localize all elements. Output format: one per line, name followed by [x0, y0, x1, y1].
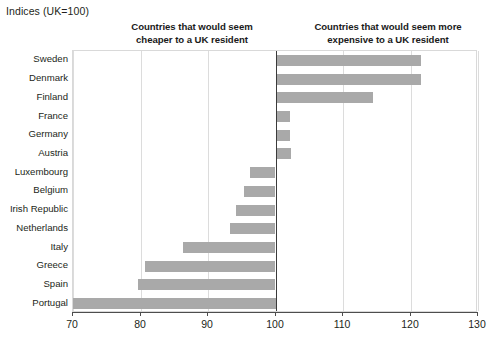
- bars-layer: [73, 51, 476, 311]
- y-label-austria: Austria: [0, 148, 68, 158]
- bar-irish-republic: [236, 205, 276, 216]
- x-tick-110: [342, 312, 343, 316]
- x-label-120: 120: [390, 318, 430, 330]
- gridline-130: [478, 51, 479, 311]
- y-label-luxembourg: Luxembourg: [0, 167, 68, 177]
- annotation-expensive-line2: expensive to a UK resident: [288, 34, 488, 47]
- x-tick-100: [275, 312, 276, 316]
- bar-austria: [276, 148, 292, 159]
- y-label-portugal: Portugal: [0, 298, 68, 308]
- y-label-germany: Germany: [0, 129, 68, 139]
- x-tick-80: [140, 312, 141, 316]
- y-label-denmark: Denmark: [0, 73, 68, 83]
- y-label-italy: Italy: [0, 242, 68, 252]
- bar-germany: [276, 130, 291, 141]
- bar-finland: [276, 92, 374, 103]
- y-label-greece: Greece: [0, 260, 68, 270]
- x-label-70: 70: [52, 318, 92, 330]
- x-tick-120: [410, 312, 411, 316]
- x-tick-90: [207, 312, 208, 316]
- baseline-gridline-100: [276, 51, 277, 311]
- bar-spain: [138, 279, 276, 290]
- annotation-expensive: Countries that would seem more expensive…: [288, 21, 488, 46]
- annotation-cheaper-line2: cheaper to a UK resident: [104, 34, 280, 47]
- bar-greece: [145, 261, 276, 272]
- chart-title: Indices (UK=100): [6, 5, 89, 17]
- y-label-finland: Finland: [0, 92, 68, 102]
- y-axis-labels: SwedenDenmarkFinlandFranceGermanyAustria…: [0, 50, 68, 312]
- bar-italy: [183, 242, 275, 253]
- plot-area: [72, 50, 477, 312]
- x-label-110: 110: [322, 318, 362, 330]
- y-label-belgium: Belgium: [0, 185, 68, 195]
- bar-denmark: [276, 74, 421, 85]
- annotation-cheaper: Countries that would seem cheaper to a U…: [104, 21, 280, 46]
- x-tick-70: [72, 312, 73, 316]
- x-label-90: 90: [187, 318, 227, 330]
- bar-netherlands: [230, 223, 276, 234]
- bar-france: [276, 111, 291, 122]
- annotation-cheaper-line1: Countries that would seem: [104, 21, 280, 34]
- annotation-expensive-line1: Countries that would seem more: [288, 21, 488, 34]
- bar-portugal: [73, 298, 276, 309]
- x-label-130: 130: [457, 318, 491, 330]
- y-label-irish-republic: Irish Republic: [0, 204, 68, 214]
- bar-belgium: [244, 186, 276, 197]
- bar-luxembourg: [250, 167, 276, 178]
- y-label-netherlands: Netherlands: [0, 223, 68, 233]
- x-tick-130: [477, 312, 478, 316]
- x-label-80: 80: [120, 318, 160, 330]
- y-label-france: France: [0, 111, 68, 121]
- y-label-sweden: Sweden: [0, 54, 68, 64]
- x-label-100: 100: [255, 318, 295, 330]
- bar-sweden: [276, 55, 421, 66]
- y-label-spain: Spain: [0, 279, 68, 289]
